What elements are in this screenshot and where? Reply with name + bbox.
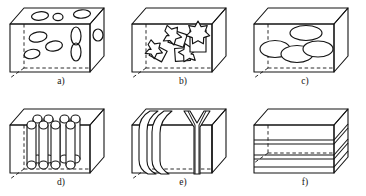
panel-f-drawing [250,103,360,179]
particle [93,29,103,41]
panel-e: e) [128,103,238,179]
panel-d-drawing [6,103,116,179]
fiber [66,121,75,169]
panel-c-drawing [250,2,360,78]
figure-root: a) [0,0,366,196]
panel-f-label: f) [250,177,360,187]
particle [31,11,49,21]
particle [71,27,81,45]
star-prism [186,21,209,52]
particle [28,31,47,44]
particle [23,48,40,60]
fiber [39,121,48,169]
panel-c-label: c) [250,76,360,86]
platelet [303,41,333,57]
panel-d-label: d) [6,177,116,187]
platelet [290,26,322,41]
fiber [27,121,36,169]
panel-b: b) [128,2,238,78]
star-prism [144,38,169,62]
particle [53,13,63,20]
particle [45,40,63,53]
panel-d: d) [6,103,116,179]
panel-b-label: b) [128,76,238,86]
panel-e-drawing [128,103,238,179]
panel-a-drawing [6,2,116,78]
panel-a-label: a) [6,76,116,86]
particle [73,9,91,19]
panel-f: f) [250,103,360,179]
fiber [51,121,60,169]
particle [71,43,81,61]
panel-b-drawing [128,2,238,78]
curved-plate [184,111,210,174]
panel-c: c) [250,2,360,78]
curved-plate [152,111,172,174]
panel-a: a) [6,2,116,78]
panel-e-label: e) [128,177,238,187]
